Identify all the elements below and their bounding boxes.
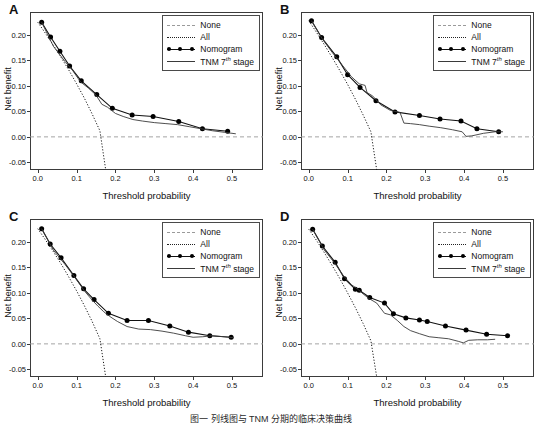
y-tick-label: -0.05 [9, 365, 26, 374]
legend-swatch-nomogram [166, 251, 196, 262]
plot-area: -0.050.000.050.100.150.200.00.10.20.30.4… [301, 12, 534, 170]
panel-letter: C [9, 209, 19, 224]
legend-label: None [471, 227, 491, 238]
legend-dot [167, 47, 171, 51]
legend-label: Nomogram [200, 44, 242, 55]
legend-dot [461, 47, 465, 51]
x-tick-label: 0.1 [342, 174, 352, 183]
nomogram-marker [474, 126, 479, 131]
legend-item: None [437, 19, 525, 31]
panel-letter: A [9, 2, 19, 17]
x-tick-mark [232, 170, 233, 173]
legend-swatch-all [166, 32, 196, 43]
x-tick-label: 0.2 [110, 381, 120, 390]
x-tick-label: 0.2 [381, 381, 391, 390]
x-tick-label: 0.1 [71, 174, 81, 183]
legend-item: None [166, 226, 254, 238]
x-tick-label: 0.5 [227, 381, 237, 390]
x-tick-label: 0.4 [188, 381, 198, 390]
series-all [38, 229, 106, 377]
x-tick-label: 0.0 [33, 381, 43, 390]
x-tick-label: 0.3 [420, 174, 430, 183]
x-tick-mark [386, 170, 387, 173]
y-tick-label: 0.15 [282, 56, 297, 65]
legend-item: TNM 7th stage [437, 55, 525, 67]
legend-item: None [437, 226, 525, 238]
y-tick-label: 0.20 [282, 30, 297, 39]
x-tick-mark [154, 377, 155, 380]
x-tick-label: 0.4 [459, 381, 469, 390]
legend-swatch-none [166, 227, 196, 238]
x-tick-label: 0.0 [304, 174, 314, 183]
legend-label: TNM 7th stage [471, 54, 525, 68]
nomogram-marker [505, 333, 510, 338]
nomogram-marker [125, 318, 130, 323]
legend-item: All [166, 31, 254, 43]
legend-dot [449, 47, 453, 51]
legend-dot [438, 254, 442, 258]
nomogram-marker [146, 318, 151, 323]
x-tick-label: 0.4 [188, 174, 198, 183]
plot-area: -0.050.000.050.100.150.200.00.10.20.30.4… [301, 219, 534, 377]
series-all [309, 229, 377, 377]
panel-a: A-0.050.000.050.100.150.200.00.10.20.30.… [0, 0, 271, 205]
legend-label: All [471, 32, 480, 43]
legend-swatch-nomogram [437, 251, 467, 262]
nomogram-marker [443, 324, 448, 329]
x-axis-label: Threshold probability [301, 190, 534, 201]
y-axis-label: Net benefit [274, 241, 284, 351]
legend-swatch-none [437, 20, 467, 31]
plot-area: -0.050.000.050.100.150.200.00.10.20.30.4… [30, 12, 263, 170]
x-tick-mark [193, 377, 194, 380]
y-tick-label: 0.10 [282, 81, 297, 90]
legend: NoneAllNomogramTNM 7th stage [433, 222, 531, 278]
legend-swatch-none [437, 227, 467, 238]
y-axis-label: Net benefit [3, 34, 13, 144]
plot-area: -0.050.000.050.100.150.200.00.10.20.30.4… [30, 219, 263, 377]
legend: NoneAllNomogramTNM 7th stage [162, 15, 260, 71]
legend-label: Nomogram [471, 44, 513, 55]
x-tick-mark [503, 377, 504, 380]
legend-label-prefix: TNM 7 [471, 264, 497, 274]
legend-item: TNM 7th stage [166, 262, 254, 274]
x-tick-label: 0.4 [459, 174, 469, 183]
panel-letter: B [280, 2, 290, 17]
x-tick-mark [425, 170, 426, 173]
nomogram-marker [167, 324, 172, 329]
nomogram-marker [458, 119, 463, 124]
legend-dot [190, 254, 194, 258]
y-tick-label: 0.05 [11, 107, 26, 116]
legend-swatch-nomogram [166, 44, 196, 55]
legend-label: TNM 7th stage [200, 261, 254, 275]
y-tick-label: 0.00 [282, 132, 297, 141]
nomogram-marker [425, 319, 430, 324]
legend-label: Nomogram [471, 251, 513, 262]
legend-item: TNM 7th stage [166, 55, 254, 67]
x-tick-mark [425, 377, 426, 380]
x-tick-mark [38, 170, 39, 173]
legend-swatch-tnm-7th-stage [437, 56, 467, 67]
y-tick-label: 0.10 [282, 288, 297, 297]
y-axis-label: Net benefit [3, 241, 13, 351]
y-tick-label: -0.05 [280, 365, 297, 374]
legend-dot [449, 254, 453, 258]
panel-b: B-0.050.000.050.100.150.200.00.10.20.30.… [271, 0, 542, 205]
legend-label: All [471, 239, 480, 250]
legend: NoneAllNomogramTNM 7th stage [162, 222, 260, 278]
panel-d: D-0.050.000.050.100.150.200.00.10.20.30.… [271, 207, 542, 412]
x-tick-mark [309, 377, 310, 380]
legend-label: Nomogram [200, 251, 242, 262]
x-axis-label: Threshold probability [30, 190, 263, 201]
nomogram-marker [92, 297, 97, 302]
x-tick-label: 0.1 [342, 381, 352, 390]
x-tick-label: 0.0 [33, 174, 43, 183]
legend-item: None [166, 19, 254, 31]
legend-label-suffix: stage [502, 264, 525, 274]
legend-dot [190, 47, 194, 51]
nomogram-marker [151, 114, 156, 119]
legend-label: TNM 7th stage [200, 54, 254, 68]
x-tick-mark [386, 377, 387, 380]
nomogram-marker [358, 85, 363, 90]
legend-swatch-all [166, 239, 196, 250]
nomogram-marker [39, 226, 44, 231]
